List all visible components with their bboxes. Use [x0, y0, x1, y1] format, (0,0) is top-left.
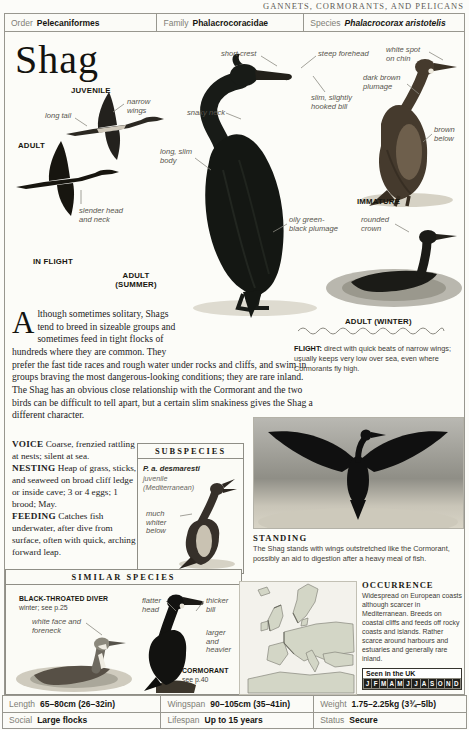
month-cell: A — [421, 679, 428, 688]
family-label: Family — [163, 18, 188, 28]
black-throated-diver-illustration — [14, 635, 134, 693]
label-hooked-bill: slim, slightly hooked bill — [311, 94, 367, 111]
month-cell: J — [364, 679, 371, 688]
label-adult-summer: ADULT (SUMMER) — [108, 272, 164, 290]
month-cell: S — [429, 679, 436, 688]
flight-label: FLIGHT: — [294, 344, 322, 353]
label-dark-brown-plumage: dark brown plumage — [363, 74, 409, 91]
voice-fact: VOICE Coarse, frenzied rattling at nests… — [12, 439, 142, 463]
social-label: Social — [9, 715, 32, 725]
order-cell: Order Pelecaniformes — [5, 14, 156, 31]
field-guide-page: GANNETS, CORMORANTS, AND PELICANS Order … — [0, 0, 469, 730]
feeding-label: FEEDING — [12, 511, 56, 521]
main-content-box: Shag — [4, 31, 465, 695]
label-long-slim-body: long, slim body — [160, 148, 198, 165]
similar-species-content: BLACK-THROATED DIVER winter; see p.25 wh… — [6, 585, 241, 694]
adult-summer-shag-illustration — [143, 50, 325, 318]
label-white-face: white face and foreneck — [32, 618, 84, 635]
weight-value: 1.75–2.25kg (3¾–5lb) — [352, 699, 437, 709]
wingspan-cell: Wingspan 90–105cm (35–41in) — [160, 696, 313, 712]
voice-label: VOICE — [12, 439, 43, 449]
label-white-spot: white spot on chin — [386, 46, 430, 63]
month-cell: O — [437, 679, 444, 688]
feeding-fact: FEEDING Catches fish underwater, after d… — [12, 511, 142, 559]
wingspan-label: Wingspan — [167, 699, 205, 709]
subspecies-juvenile-illustration — [175, 477, 241, 569]
social-value: Large flocks — [37, 715, 87, 725]
label-snaky-neck: snaky neck — [187, 109, 225, 118]
seen-in-uk-box: Seen in the UK JFMAMJJASOND — [362, 668, 462, 690]
month-cell: M — [396, 679, 403, 688]
uk-months-row: JFMAMJJASOND — [363, 678, 461, 689]
lifespan-value: Up to 15 years — [205, 715, 263, 725]
month-cell: F — [372, 679, 379, 688]
species-cell: Species Phalacrocorax aristotelis — [303, 14, 464, 31]
flight-note: FLIGHT: direct with quick beats of narro… — [294, 344, 464, 374]
page-title: Shag — [15, 36, 99, 83]
order-label: Order — [11, 18, 33, 28]
facts-block: VOICE Coarse, frenzied rattling at nests… — [12, 439, 142, 559]
europe-range-map — [239, 581, 357, 695]
occurrence-text: Widespread on European coasts although s… — [362, 592, 465, 664]
subspecies-name: P. a. desmaresti — [143, 464, 200, 473]
month-cell: D — [453, 679, 460, 688]
length-label: Length — [9, 699, 35, 709]
intro-paragraph: Although sometimes solitary, Shags tend … — [12, 308, 320, 422]
label-steep-forehead: steep forehead — [318, 50, 369, 59]
wing-spread-shag-illustration — [254, 418, 463, 528]
species-value: Phalacrocorax aristotelis — [345, 18, 446, 28]
order-value: Pelecaniformes — [37, 18, 100, 28]
family-value: Phalacrocoracidae — [193, 18, 269, 28]
month-cell: A — [388, 679, 395, 688]
label-juvenile: JUVENILE — [71, 87, 111, 96]
label-in-flight: IN FLIGHT — [33, 258, 73, 267]
family-cell: Family Phalacrocoracidae — [156, 14, 303, 31]
label-oily-plumage: oily green-black plumage — [289, 216, 341, 233]
month-cell: N — [445, 679, 452, 688]
label-rounded-crown: rounded crown — [361, 216, 397, 233]
classification-bar: Order Pelecaniformes Family Phalacrocora… — [4, 13, 465, 32]
nesting-fact: NESTING Heap of grass, sticks, and seawe… — [12, 463, 142, 511]
month-cell: M — [380, 679, 387, 688]
wingspan-value: 90–105cm (35–41in) — [210, 699, 290, 709]
label-thicker-bill: thicker bill — [206, 597, 236, 614]
status-label: Status — [320, 715, 344, 725]
stats-table: Length 65–80cm (26–32in) Wingspan 90–105… — [2, 695, 467, 729]
label-larger-heavier: larger and heavier — [206, 629, 236, 655]
nesting-label: NESTING — [12, 463, 55, 473]
similar-species-header: SIMILAR SPECIES — [6, 570, 241, 585]
diver-name: BLACK-THROATED DIVER — [19, 595, 108, 602]
label-long-tail: long tail — [45, 112, 71, 121]
lifespan-cell: Lifespan Up to 15 years — [160, 713, 313, 729]
label-short-crest: short crest — [221, 50, 256, 59]
month-cell: J — [404, 679, 411, 688]
subspecies-box: SUBSPECIES P. a. desmaresti juvenile (Me… — [137, 443, 244, 574]
status-cell: Status Secure — [313, 713, 466, 729]
standing-caption: STANDING The Shag stands with wings outs… — [253, 533, 466, 564]
stats-row-1: Length 65–80cm (26–32in) Wingspan 90–105… — [3, 696, 466, 712]
stats-row-2: Social Large flocks Lifespan Up to 15 ye… — [3, 712, 466, 729]
occurrence-block: OCCURRENCE Widespread on European coasts… — [362, 580, 465, 690]
diver-ref: winter; see p.25 — [19, 604, 68, 611]
running-head: GANNETS, CORMORANTS, AND PELICANS — [263, 1, 464, 11]
standing-label: STANDING — [253, 533, 466, 543]
species-label: Species — [310, 18, 340, 28]
label-narrow-wings: narrow wings — [127, 98, 161, 115]
status-value: Secure — [349, 715, 377, 725]
length-cell: Length 65–80cm (26–32in) — [3, 696, 160, 712]
weight-label: Weight — [320, 699, 346, 709]
occurrence-header: OCCURRENCE — [362, 580, 465, 590]
weight-cell: Weight 1.75–2.25kg (3¾–5lb) — [313, 696, 466, 712]
lifespan-label: Lifespan — [167, 715, 199, 725]
cormorant-illustration — [136, 589, 206, 693]
social-cell: Social Large flocks — [3, 713, 160, 729]
label-immature: IMMATURE — [357, 198, 400, 207]
label-slender-head: slender head and neck — [79, 207, 123, 224]
similar-species-box: SIMILAR SPECIES BLACK-THROATED DIVER win… — [5, 569, 242, 695]
dropcap: A — [12, 308, 37, 335]
label-adult: ADULT — [18, 142, 45, 151]
standing-text: The Shag stands with wings outstretched … — [253, 544, 466, 564]
label-brown-below: brown below — [434, 126, 462, 143]
month-cell: J — [412, 679, 419, 688]
subspecies-header: SUBSPECIES — [138, 444, 243, 459]
